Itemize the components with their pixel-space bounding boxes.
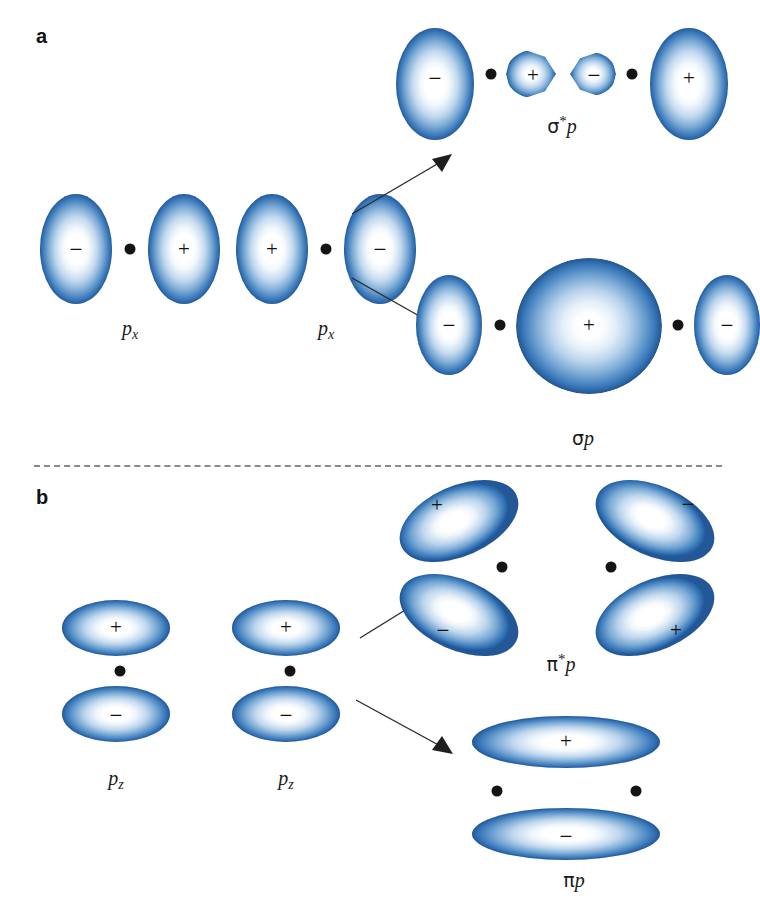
sign-pi-star-lower-left: − — [437, 619, 450, 642]
label-px-right-base: p — [318, 317, 328, 339]
nucleus-dot-pz-right — [285, 666, 296, 677]
sign-pz-right-minus: − — [280, 704, 293, 727]
label-pz-left-base: p — [108, 767, 118, 789]
label-pz-right-sub: z — [288, 777, 293, 792]
sign-px-left-plus: + — [178, 239, 190, 260]
label-pi-p: πp — [563, 870, 584, 890]
label-sigma-star-base: p — [567, 115, 577, 137]
label-sigma-star-greek: σ — [547, 115, 559, 137]
nucleus-dot-px-left — [125, 244, 136, 255]
sign-pi-upper: + — [560, 731, 572, 752]
arrow-to-pi-bonding — [352, 694, 462, 764]
nucleus-dot-sigma-right — [673, 320, 684, 331]
nucleus-dot-px-right — [321, 244, 332, 255]
panel-letter-a: a — [36, 26, 47, 46]
sign-pi-star-upper-right: − — [682, 493, 695, 516]
nucleus-dot-pz-left — [115, 666, 126, 677]
label-pi-star-base: p — [565, 653, 575, 675]
label-px-right-sub: x — [328, 327, 334, 342]
lobe-pi-star-upper-left-plus — [387, 463, 531, 578]
sign-pi-star-upper-left: + — [431, 495, 443, 516]
panel-letter-b: b — [36, 487, 48, 507]
label-sigma-star-p: σ*p — [547, 114, 577, 136]
nucleus-dot-pi-right — [631, 786, 642, 797]
label-px-right: px — [318, 318, 334, 342]
label-px-left-sub: x — [132, 327, 138, 342]
sign-pi-star-lower-right: + — [670, 620, 682, 641]
lobe-pi-star-lower-right-plus — [583, 557, 727, 672]
panel-divider — [34, 465, 722, 467]
sign-pi-lower: − — [560, 825, 573, 848]
label-pi-star-greek: π — [547, 653, 558, 675]
sign-px-left-minus: − — [70, 238, 83, 261]
arrow-to-sigma-star — [348, 148, 458, 220]
sign-px-right-minus: − — [374, 238, 387, 261]
nucleus-dot-pi-star-left — [497, 562, 508, 573]
sign-pz-right-plus: + — [280, 617, 292, 638]
sign-sigma-star-inner-left: + — [527, 65, 539, 86]
lobe-pi-star-upper-right-minus — [583, 463, 727, 578]
nucleus-dot-pi-left — [492, 786, 503, 797]
nucleus-dot-sigma-left — [495, 320, 506, 331]
sign-sigma-outer-left: − — [443, 314, 456, 337]
nucleus-dot-pi-star-right — [606, 562, 617, 573]
label-pz-right: pz — [278, 768, 293, 792]
sign-sigma-star-outer-right: + — [683, 68, 695, 89]
label-pz-left-sub: z — [118, 777, 123, 792]
nucleus-dot-sigma-star-left — [486, 69, 497, 80]
sign-sigma-central: + — [583, 315, 595, 336]
label-px-left: px — [122, 318, 138, 342]
sign-px-right-plus: + — [266, 239, 278, 260]
label-sigma-greek: σ — [572, 427, 584, 449]
label-sigma-p: σp — [572, 428, 594, 448]
sign-sigma-star-inner-right: − — [588, 64, 601, 87]
label-pi-greek: π — [563, 869, 574, 891]
label-sigma-base: p — [584, 427, 594, 449]
sign-sigma-outer-right: − — [721, 314, 734, 337]
label-px-left-base: p — [122, 317, 132, 339]
sign-pz-left-plus: + — [110, 617, 122, 638]
label-pi-star-p: π*p — [547, 652, 576, 674]
nucleus-dot-sigma-star-right — [627, 69, 638, 80]
label-sigma-star-asterisk: * — [559, 113, 567, 129]
label-pi-base: p — [575, 869, 585, 891]
label-pz-right-base: p — [278, 767, 288, 789]
label-pi-star-asterisk: * — [558, 651, 566, 667]
label-pz-left: pz — [108, 768, 123, 792]
sign-pz-left-minus: − — [110, 704, 123, 727]
sign-sigma-star-outer-left: − — [429, 67, 442, 90]
